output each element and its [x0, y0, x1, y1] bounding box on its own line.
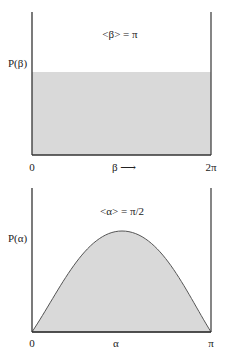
arrow-right-icon: ⟶	[120, 161, 136, 173]
charts-canvas	[0, 0, 228, 361]
top-x-tick-2pi: 2π	[205, 162, 216, 173]
bottom-x-axis-label: α	[113, 338, 119, 349]
top-x-axis-label: β ⟶	[112, 162, 136, 173]
top-y-axis-label: P(β)	[8, 58, 27, 69]
top-x-tick-0: 0	[29, 162, 35, 173]
bottom-chart-title: <α> = π/2	[100, 206, 144, 217]
bottom-x-tick-0: 0	[29, 338, 35, 349]
bottom-x-tick-pi: π	[208, 338, 214, 349]
beta-symbol: β	[112, 161, 118, 173]
top-chart-title: <β> = π	[102, 29, 137, 40]
sine-fill-area	[32, 231, 211, 332]
bottom-y-axis-label: P(α)	[8, 233, 27, 244]
uniform-fill-area	[32, 72, 211, 155]
